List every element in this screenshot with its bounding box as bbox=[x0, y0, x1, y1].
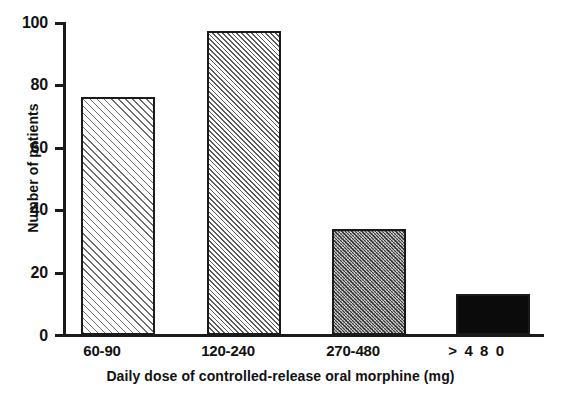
y-tick-mark-60 bbox=[55, 147, 64, 150]
y-tick-mark-40 bbox=[55, 209, 64, 212]
x-tick-label-120-240: 120-240 bbox=[172, 343, 284, 358]
y-tick-label-40: 40 bbox=[2, 202, 48, 218]
y-tick-label-60: 60 bbox=[2, 140, 48, 156]
y-tick-label-100: 100 bbox=[2, 15, 48, 31]
y-tick-label-0: 0 bbox=[2, 328, 48, 344]
bar-chart: Number of patients 100 80 60 40 20 0 60-… bbox=[0, 0, 561, 396]
y-axis-title: Number of patients bbox=[25, 73, 41, 263]
x-axis-line bbox=[63, 334, 544, 337]
plot-area bbox=[66, 22, 544, 335]
y-tick-mark-80 bbox=[55, 84, 64, 87]
x-tick-label-over-480: > 4 8 0 bbox=[421, 343, 533, 358]
bar-270-480[interactable] bbox=[332, 229, 406, 335]
y-tick-mark-100 bbox=[55, 22, 64, 25]
bar-120-240[interactable] bbox=[207, 31, 281, 335]
bar-over-480[interactable] bbox=[456, 294, 530, 335]
y-tick-label-20: 20 bbox=[2, 265, 48, 281]
y-tick-mark-20 bbox=[55, 272, 64, 275]
bar-60-90[interactable] bbox=[81, 97, 155, 335]
x-tick-label-60-90: 60-90 bbox=[46, 343, 158, 358]
x-axis-title: Daily dose of controlled-release oral mo… bbox=[0, 368, 561, 384]
y-tick-label-80: 80 bbox=[2, 77, 48, 93]
x-tick-label-270-480: 270-480 bbox=[297, 343, 409, 358]
